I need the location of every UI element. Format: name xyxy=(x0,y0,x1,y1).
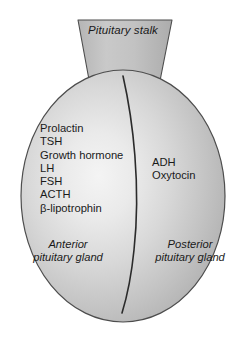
pituitary-diagram: Pituitary stalk Prolactin TSH Growth hor… xyxy=(0,0,246,352)
pituitary-gland-body xyxy=(21,70,225,322)
pituitary-figure-svg xyxy=(0,0,246,352)
